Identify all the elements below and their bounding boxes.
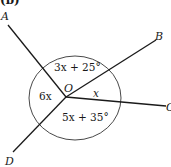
part-label: (b) xyxy=(0,0,20,7)
point-a-label: A xyxy=(0,10,9,23)
center-o-label: O xyxy=(64,82,73,95)
angle-doa-label: 6x xyxy=(39,90,52,102)
point-c-label: C xyxy=(166,101,171,114)
ray-od xyxy=(13,97,66,152)
angle-cod-label: 5x + 35° xyxy=(62,111,109,123)
angle-aob-label: 3x + 25° xyxy=(54,61,101,73)
ray-oc xyxy=(66,97,166,106)
angles-diagram: (b) A B C D O 3x + 25° x 5x + 35° 6x xyxy=(0,0,171,167)
angle-boc-label: x xyxy=(93,87,99,99)
point-d-label: D xyxy=(4,155,14,167)
point-b-label: B xyxy=(154,30,163,43)
